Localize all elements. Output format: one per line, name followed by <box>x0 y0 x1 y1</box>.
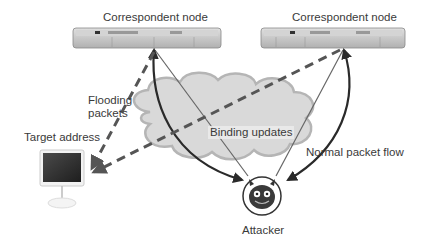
flooding-packets-label-line2: packets <box>88 107 128 120</box>
diagram-graphics <box>0 0 443 246</box>
flooding-packets-label-line1: Flooding <box>88 94 132 107</box>
correspondent-node-left-label: Correspondent node <box>103 11 208 24</box>
network-cloud <box>134 73 313 160</box>
correspondent-node-left-server <box>73 28 221 48</box>
binding-updates-label: Binding updates <box>208 126 294 139</box>
correspondent-node-right-label: Correspondent node <box>292 11 397 24</box>
attacker-devil-icon <box>243 177 281 215</box>
target-address-label: Target address <box>24 131 100 144</box>
attacker-label: Attacker <box>242 224 284 237</box>
diagram-canvas: Correspondent node Correspondent node Fl… <box>0 0 443 246</box>
correspondent-node-right-server <box>261 28 405 48</box>
normal-packet-flow-label: Normal packet flow <box>306 146 404 159</box>
target-computer-icon <box>40 150 84 208</box>
